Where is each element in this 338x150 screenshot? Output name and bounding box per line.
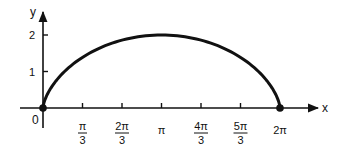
y-tick-label: 2 xyxy=(29,29,35,41)
origin-label: 0 xyxy=(32,113,39,127)
x-tick-numerator: 5π xyxy=(234,120,248,132)
x-tick-numerator: π xyxy=(79,120,87,132)
endpoint-dot xyxy=(276,104,284,112)
x-tick-denominator: 3 xyxy=(119,134,125,146)
y-axis-label: y xyxy=(30,5,36,19)
x-tick-denominator: 3 xyxy=(79,134,85,146)
y-tick-label: 1 xyxy=(29,66,35,78)
x-axis-label: x xyxy=(322,101,328,115)
x-ticks: π32π3π4π35π32π xyxy=(78,103,287,146)
x-tick-denominator: 3 xyxy=(237,134,243,146)
cycloid-curve xyxy=(43,35,280,108)
x-tick-label: 2π xyxy=(273,124,287,136)
x-tick-numerator: 2π xyxy=(115,120,129,132)
x-tick-label: π xyxy=(158,124,166,136)
y-ticks: 12 xyxy=(29,29,48,78)
cycloid-chart: x y 0 12 π32π3π4π35π32π xyxy=(0,0,338,150)
x-tick-numerator: 4π xyxy=(194,120,208,132)
endpoint-dot xyxy=(39,104,47,112)
x-tick-denominator: 3 xyxy=(198,134,204,146)
